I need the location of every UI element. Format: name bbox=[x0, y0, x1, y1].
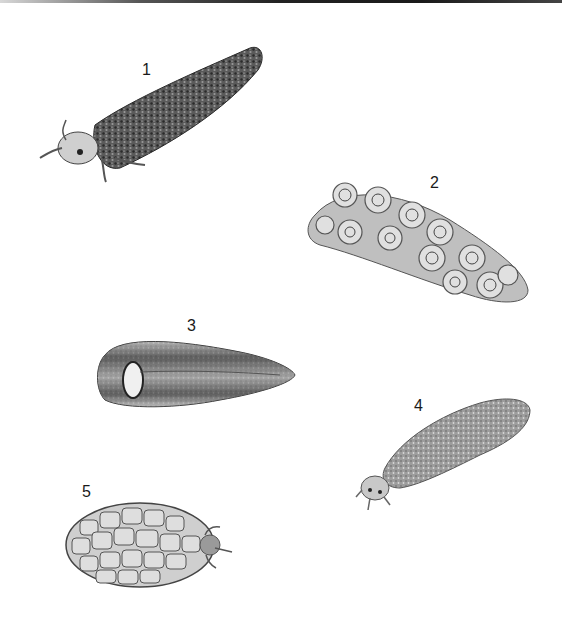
specimen-2-snail-shell-case bbox=[308, 183, 528, 302]
specimen-3-conical-case bbox=[98, 341, 296, 406]
specimen-5-mosaic-stone-case bbox=[66, 503, 232, 587]
specimen-label-4: 4 bbox=[414, 398, 423, 414]
specimen-label-3: 3 bbox=[187, 318, 196, 334]
caddisfly-cases-illustration bbox=[0, 0, 562, 620]
specimen-label-2: 2 bbox=[430, 175, 439, 191]
specimen-label-1: 1 bbox=[142, 62, 151, 78]
specimen-4-fine-sand-case bbox=[356, 399, 530, 510]
specimen-1-sand-grain-case bbox=[40, 47, 262, 182]
specimen-label-5: 5 bbox=[82, 484, 91, 500]
